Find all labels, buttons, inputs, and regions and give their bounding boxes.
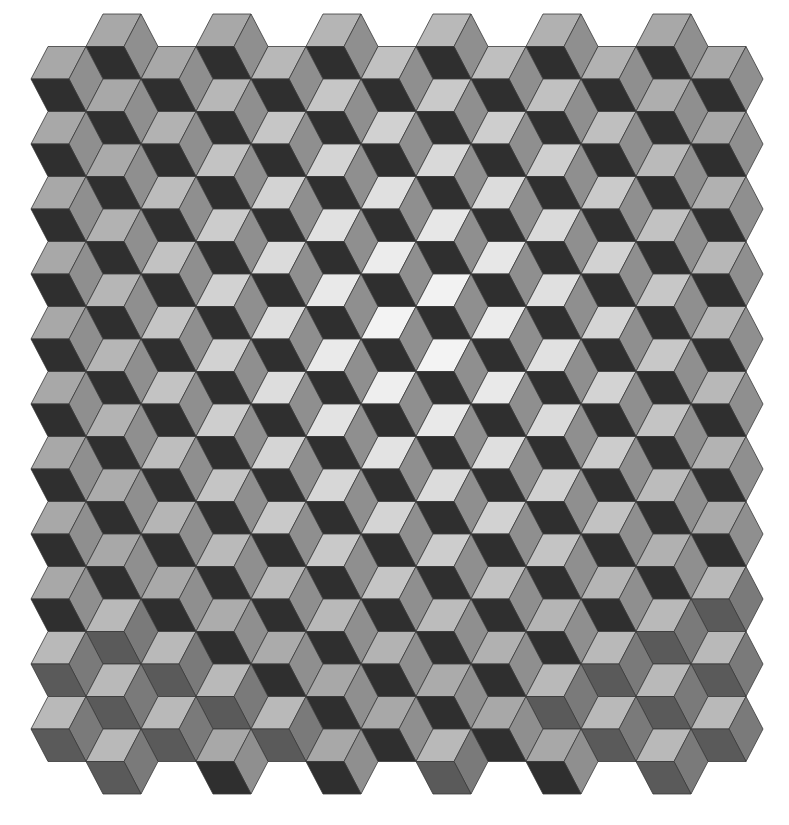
tumbling-blocks-quilt [0,0,789,825]
cube-grid [31,14,763,794]
